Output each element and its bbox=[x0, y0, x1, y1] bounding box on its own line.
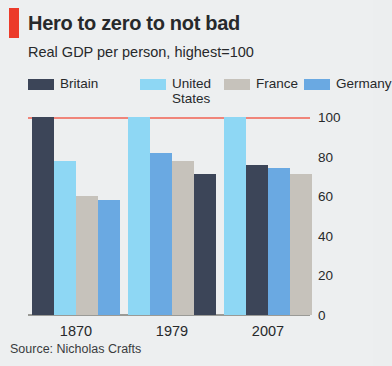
legend-item-germany[interactable]: Germany bbox=[304, 76, 392, 91]
legend-label: France bbox=[256, 76, 298, 91]
chart-subtitle: Real GDP per person, highest=100 bbox=[28, 44, 254, 60]
chart-legend: BritainUnited StatesFranceGermany bbox=[28, 76, 368, 112]
legend-label: Germany bbox=[336, 76, 392, 91]
bar-britain-1870[interactable] bbox=[32, 117, 54, 315]
bar-france-1979[interactable] bbox=[172, 161, 194, 315]
plot-area: 020406080100187019792007 bbox=[28, 117, 310, 315]
bar-france-2007[interactable] bbox=[290, 174, 312, 315]
bar-united-states-2007[interactable] bbox=[224, 117, 246, 315]
legend-item-united-states[interactable]: United States bbox=[140, 76, 211, 106]
page-title: Hero to zero to not bad bbox=[28, 12, 240, 35]
legend-swatch-icon bbox=[28, 79, 54, 90]
y-axis-tick-label: 80 bbox=[318, 149, 333, 164]
legend-item-france[interactable]: France bbox=[224, 76, 298, 91]
legend-swatch-icon bbox=[140, 79, 166, 90]
bar-germany-1870[interactable] bbox=[98, 200, 120, 315]
y-axis-tick-label: 20 bbox=[318, 268, 333, 283]
plot-inner: 020406080100187019792007 bbox=[28, 117, 310, 315]
bar-united-states-1870[interactable] bbox=[54, 161, 76, 315]
bar-group-2007 bbox=[224, 117, 314, 315]
bar-france-1870[interactable] bbox=[76, 196, 98, 315]
bar-group-1979 bbox=[128, 117, 218, 315]
bar-germany-2007[interactable] bbox=[268, 168, 290, 315]
bar-group-1870 bbox=[32, 117, 122, 315]
source-note: Source: Nicholas Crafts bbox=[10, 342, 141, 356]
legend-item-britain[interactable]: Britain bbox=[28, 76, 98, 91]
y-axis-tick-label: 0 bbox=[318, 308, 326, 323]
y-axis-tick-label: 100 bbox=[318, 110, 341, 125]
x-axis-group-label-1979: 1979 bbox=[128, 323, 216, 339]
bar-united-states-1979[interactable] bbox=[128, 117, 150, 315]
bar-britain-1979[interactable] bbox=[194, 174, 216, 315]
legend-swatch-icon bbox=[224, 79, 250, 90]
bar-britain-2007[interactable] bbox=[246, 165, 268, 315]
x-axis-group-label-2007: 2007 bbox=[224, 323, 312, 339]
x-axis-group-label-1870: 1870 bbox=[32, 323, 120, 339]
bar-germany-1979[interactable] bbox=[150, 153, 172, 315]
legend-label: United States bbox=[172, 76, 211, 106]
legend-label: Britain bbox=[60, 76, 98, 91]
accent-bar bbox=[9, 8, 19, 38]
legend-swatch-icon bbox=[304, 79, 330, 90]
y-axis-tick-label: 40 bbox=[318, 228, 333, 243]
y-axis-tick-label: 60 bbox=[318, 189, 333, 204]
